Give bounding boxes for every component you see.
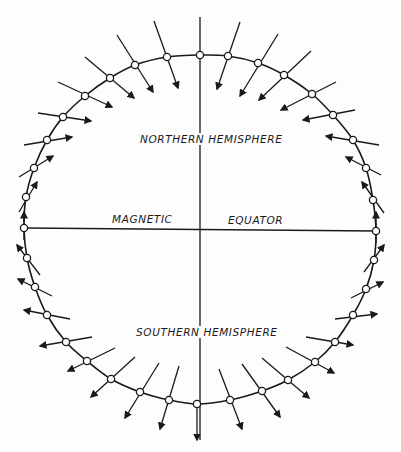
station-marker bbox=[20, 224, 27, 231]
station-marker bbox=[30, 164, 37, 171]
station-marker bbox=[136, 388, 143, 395]
station-marker bbox=[369, 196, 376, 203]
station-marker bbox=[284, 376, 291, 383]
station-marker bbox=[106, 74, 113, 81]
station-marker bbox=[311, 358, 318, 365]
station-marker bbox=[362, 285, 369, 292]
station-marker bbox=[22, 193, 29, 200]
station-marker bbox=[280, 71, 287, 78]
diagram-canvas bbox=[0, 0, 401, 452]
station-marker bbox=[193, 400, 200, 407]
station-marker bbox=[31, 283, 38, 290]
magnetic-label: MAGNETIC bbox=[110, 213, 175, 225]
northern-hemisphere-label: NORTHERN HEMISPHERE bbox=[138, 133, 284, 145]
southern-hemisphere-label: SOUTHERN HEMISPHERE bbox=[134, 326, 280, 338]
station-marker bbox=[23, 254, 30, 261]
station-marker bbox=[43, 311, 50, 318]
station-marker bbox=[163, 53, 170, 60]
station-marker bbox=[131, 61, 138, 68]
station-marker bbox=[362, 164, 369, 171]
station-marker bbox=[165, 396, 172, 403]
station-marker bbox=[196, 51, 203, 58]
station-marker bbox=[81, 92, 88, 99]
station-marker bbox=[43, 136, 50, 143]
axes bbox=[24, 17, 376, 440]
station-marker bbox=[329, 111, 336, 118]
station-marker bbox=[226, 396, 233, 403]
inclination-diagram: NORTHERN HEMISPHERE MAGNETIC EQUATOR SOU… bbox=[0, 0, 401, 452]
station-marker bbox=[372, 227, 379, 234]
station-marker bbox=[83, 357, 90, 364]
field-arrow bbox=[306, 337, 353, 345]
station-marker bbox=[331, 338, 338, 345]
station-marker bbox=[349, 136, 356, 143]
station-marker bbox=[107, 375, 114, 382]
equator-label: EQUATOR bbox=[226, 214, 285, 226]
station-marker bbox=[349, 311, 356, 318]
station-marker bbox=[258, 387, 265, 394]
station-marker bbox=[308, 90, 315, 97]
station-marker bbox=[224, 52, 231, 59]
station-marker bbox=[254, 59, 261, 66]
station-marker bbox=[62, 338, 69, 345]
station-marker bbox=[370, 256, 377, 263]
station-marker bbox=[59, 113, 66, 120]
